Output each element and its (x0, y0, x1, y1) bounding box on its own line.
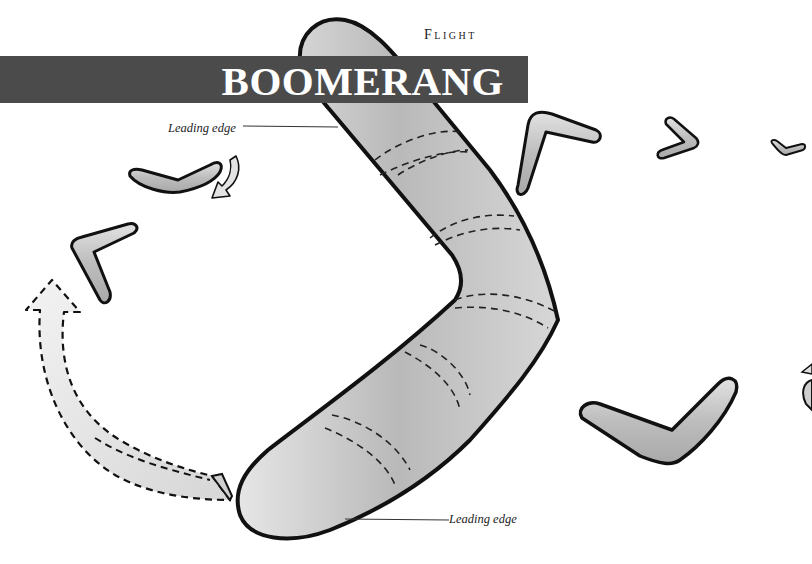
leader-line-top (243, 126, 338, 127)
small-boomerang-1 (130, 163, 222, 193)
section-label: Flight (424, 27, 477, 43)
large-boomerang-right (580, 378, 736, 463)
page-title: BOOMERANG (222, 61, 504, 101)
callout-leading-edge-top: Leading edge (168, 121, 236, 136)
leader-line-bottom (345, 519, 449, 520)
small-boomerang-4 (658, 118, 698, 159)
small-boomerang-2 (72, 224, 137, 303)
partial-boomerang-edge (803, 380, 812, 410)
small-boomerang-3 (517, 112, 600, 194)
return-path-arrow (26, 280, 232, 500)
title-banner: BOOMERANG (0, 56, 528, 103)
small-boomerang-5 (771, 140, 805, 155)
callout-leading-edge-bottom: Leading edge (449, 512, 517, 527)
partial-arrow-edge (802, 364, 812, 374)
